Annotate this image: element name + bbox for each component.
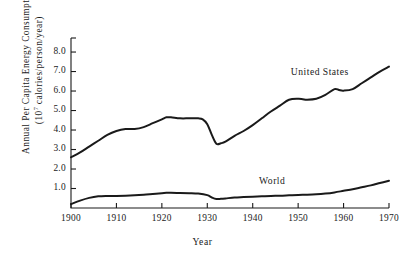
series-curve-world: [71, 181, 389, 204]
y-axis-tick-label-2.0: 2.0: [32, 163, 66, 173]
y-axis-tick-label-8.0: 8.0: [32, 46, 66, 56]
axis-spine: [71, 38, 389, 208]
x-axis-tick-label-1900: 1900: [51, 213, 91, 223]
x-axis-tick-label-1930: 1930: [187, 213, 227, 223]
x-axis-tick-label-1910: 1910: [96, 213, 136, 223]
series-curve-united-states: [71, 67, 389, 158]
energy-consumption-chart: Annual Per Capita Energy Consumption (10…: [0, 0, 405, 255]
series-label-world: World: [259, 175, 285, 186]
y-axis-tick-label-5.0: 5.0: [32, 104, 66, 114]
y-axis-tick-label-1.0: 1.0: [32, 182, 66, 192]
series-label-united-states: United States: [291, 66, 349, 77]
x-axis-tick-label-1950: 1950: [278, 213, 318, 223]
x-axis-tick-label-1960: 1960: [324, 213, 364, 223]
x-axis-tick-label-1940: 1940: [233, 213, 273, 223]
chart-series-curves: [71, 67, 389, 204]
y-axis-tick-label-7.0: 7.0: [32, 65, 66, 75]
x-axis-label: Year: [0, 236, 405, 247]
y-axis-tick-label-3.0: 3.0: [32, 143, 66, 153]
x-axis-tick-label-1920: 1920: [142, 213, 182, 223]
y-axis-tick-label-4.0: 4.0: [32, 124, 66, 134]
y-axis-tick-label-6.0: 6.0: [32, 85, 66, 95]
x-axis-tick-label-1970: 1970: [369, 213, 405, 223]
chart-axes: [71, 38, 389, 208]
